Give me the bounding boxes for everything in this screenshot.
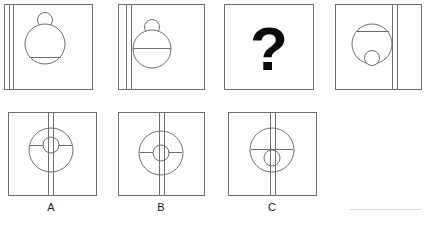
question-mark-glyph: ? [250, 14, 288, 83]
answer-option-a[interactable]: A [9, 113, 97, 214]
option-label-b: B [157, 201, 164, 213]
small-circle [153, 145, 169, 161]
puzzle-canvas: ? A [0, 0, 425, 229]
sequence-panel-3-unknown[interactable]: ? [225, 5, 314, 90]
sequence-panel-1[interactable] [5, 5, 93, 90]
puzzle-figure: ? A [0, 0, 425, 229]
option-label-a: A [47, 201, 55, 213]
sequence-panel-2[interactable] [119, 5, 205, 90]
small-circle [43, 137, 59, 153]
panel-frame [9, 113, 97, 196]
sequence-panel-4[interactable] [336, 5, 422, 90]
answer-option-b[interactable]: B [119, 113, 205, 214]
answer-option-c[interactable]: C [229, 113, 317, 214]
option-label-c: C [268, 201, 276, 213]
small-circle [365, 51, 380, 66]
small-circle [264, 150, 280, 166]
